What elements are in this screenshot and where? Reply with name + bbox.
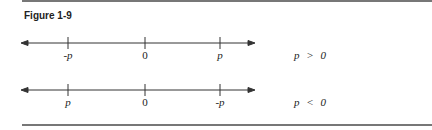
number-lines-drawing bbox=[0, 0, 432, 130]
number-line-2 bbox=[21, 84, 255, 96]
tick-label: -p bbox=[215, 96, 224, 108]
tick-label: 0 bbox=[142, 49, 148, 61]
bottom-rule bbox=[22, 124, 432, 126]
tick-label: p bbox=[217, 49, 223, 61]
condition-label: p > 0 bbox=[294, 49, 326, 61]
tick-label: -p bbox=[63, 49, 72, 61]
tick-label: 0 bbox=[142, 96, 148, 108]
left-arrow-icon bbox=[21, 41, 28, 46]
right-arrow-icon bbox=[248, 88, 255, 93]
left-arrow-icon bbox=[21, 88, 28, 93]
number-line-1 bbox=[21, 37, 255, 49]
condition-label: p < 0 bbox=[294, 96, 326, 108]
tick-label: p bbox=[65, 96, 71, 108]
right-arrow-icon bbox=[248, 41, 255, 46]
